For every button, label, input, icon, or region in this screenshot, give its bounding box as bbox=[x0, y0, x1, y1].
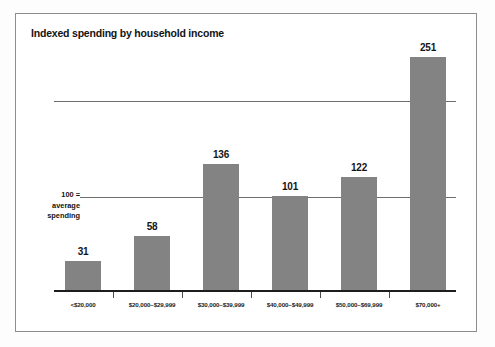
bar-value-2: 136 bbox=[201, 149, 241, 160]
bar-5[interactable] bbox=[410, 57, 446, 290]
gridline-200 bbox=[54, 101, 433, 102]
figure-canvas: Indexed spending by household income 100… bbox=[0, 0, 495, 347]
bar-value-0: 31 bbox=[63, 246, 103, 257]
bar-value-1: 58 bbox=[132, 221, 172, 232]
axis-tick-5 bbox=[389, 292, 390, 298]
axis-annotation-line-1: 100 = bbox=[24, 190, 80, 201]
x-axis-label-3: $40,000–$49,999 bbox=[250, 301, 330, 308]
bar-1[interactable] bbox=[134, 236, 170, 290]
axis-tick-1 bbox=[113, 292, 114, 298]
bar-0[interactable] bbox=[65, 261, 101, 290]
axis-annotation: 100 = average spending bbox=[24, 190, 80, 222]
bar-4[interactable] bbox=[341, 177, 377, 290]
axis-annotation-line-2: average bbox=[24, 201, 80, 212]
x-axis-label-0: <$20,000 bbox=[43, 301, 123, 308]
plot-area: 100 = average spending 31 58 136 101 122… bbox=[0, 0, 495, 347]
bar-3[interactable] bbox=[272, 196, 308, 290]
x-axis-line bbox=[54, 290, 456, 292]
x-axis-label-1: $20,000–$29,999 bbox=[112, 301, 192, 308]
gridline-100 bbox=[80, 197, 433, 198]
axis-tick-3 bbox=[251, 292, 252, 298]
bar-2[interactable] bbox=[203, 164, 239, 290]
bar-value-4: 122 bbox=[339, 162, 379, 173]
axis-tick-2 bbox=[182, 292, 183, 298]
x-axis-label-2: $30,000–$39,999 bbox=[181, 301, 261, 308]
bar-value-3: 101 bbox=[270, 181, 310, 192]
x-axis-label-5: $70,000+ bbox=[388, 301, 468, 308]
x-axis-label-4: $50,000–$69,999 bbox=[319, 301, 399, 308]
bar-value-5: 251 bbox=[408, 42, 448, 53]
axis-tick-4 bbox=[320, 292, 321, 298]
axis-annotation-line-3: spending bbox=[24, 211, 80, 222]
